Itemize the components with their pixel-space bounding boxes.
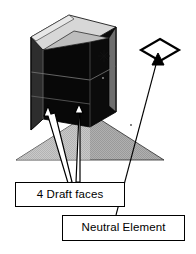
callout-label-draft-faces: 4 Draft faces xyxy=(37,189,104,201)
draft-face-left-outer xyxy=(31,37,43,130)
callout-box-neutral-element: Neutral Element xyxy=(62,215,185,241)
callout-box-draft-faces: 4 Draft faces xyxy=(15,182,125,207)
ground-dot-marker xyxy=(130,124,132,126)
surface-dot-marker xyxy=(102,77,104,79)
diagram-canvas: 4 Draft faces Neutral Element xyxy=(0,0,196,254)
callout-label-neutral-element: Neutral Element xyxy=(82,222,166,234)
